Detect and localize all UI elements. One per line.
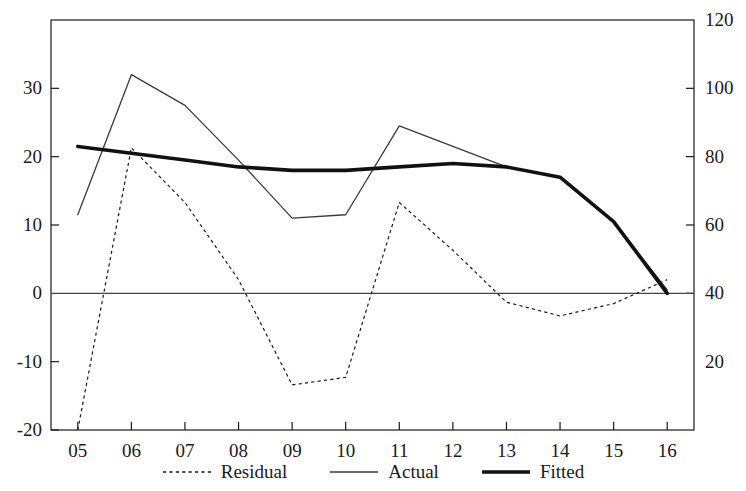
series-line-residual bbox=[78, 148, 667, 430]
left-axis-tick-label: 20 bbox=[23, 147, 42, 166]
series-line-actual bbox=[78, 75, 667, 290]
left-axis-tick-label: 0 bbox=[33, 283, 43, 302]
legend-label: Residual bbox=[221, 462, 288, 481]
bottom-axis-tick-label: 14 bbox=[535, 441, 585, 460]
bottom-axis-tick-label: 06 bbox=[106, 441, 156, 460]
bottom-axis-tick-label: 10 bbox=[321, 441, 371, 460]
bottom-axis-tick-label: 09 bbox=[267, 441, 317, 460]
chart-legend: ResidualActualFitted bbox=[0, 462, 746, 481]
bottom-axis-tick-label: 12 bbox=[428, 441, 478, 460]
bottom-axis-tick-label: 05 bbox=[53, 441, 103, 460]
legend-swatch-actual-icon bbox=[329, 466, 379, 478]
left-axis-tick-label: -10 bbox=[17, 352, 42, 371]
chart-plot-area bbox=[0, 0, 746, 491]
legend-item-residual[interactable]: Residual bbox=[162, 462, 288, 481]
legend-item-actual[interactable]: Actual bbox=[329, 462, 439, 481]
right-axis-tick-label: 40 bbox=[705, 283, 724, 302]
left-axis-tick-label: -20 bbox=[17, 420, 42, 439]
series-line-fitted bbox=[78, 146, 667, 293]
legend-swatch-residual-icon bbox=[162, 466, 212, 478]
bottom-axis-tick-label: 08 bbox=[214, 441, 264, 460]
right-axis-tick-label: 120 bbox=[705, 10, 734, 29]
legend-label: Fitted bbox=[540, 462, 584, 481]
left-axis-tick-label: 30 bbox=[23, 78, 42, 97]
bottom-axis-tick-label: 13 bbox=[481, 441, 531, 460]
right-axis-tick-label: 60 bbox=[705, 215, 724, 234]
right-axis-tick-label: 100 bbox=[705, 78, 734, 97]
bottom-axis-tick-label: 07 bbox=[160, 441, 210, 460]
chart-figure: -20-100102030 20406080100120 05060708091… bbox=[0, 0, 746, 491]
legend-swatch-fitted-icon bbox=[481, 466, 531, 478]
plot-frame bbox=[51, 20, 694, 430]
bottom-axis-tick-label: 16 bbox=[642, 441, 692, 460]
left-axis-tick-label: 10 bbox=[23, 215, 42, 234]
right-axis-tick-label: 20 bbox=[705, 352, 724, 371]
bottom-axis-tick-label: 11 bbox=[374, 441, 424, 460]
bottom-axis-tick-label: 15 bbox=[589, 441, 639, 460]
legend-label: Actual bbox=[388, 462, 439, 481]
right-axis-tick-label: 80 bbox=[705, 147, 724, 166]
legend-item-fitted[interactable]: Fitted bbox=[481, 462, 584, 481]
